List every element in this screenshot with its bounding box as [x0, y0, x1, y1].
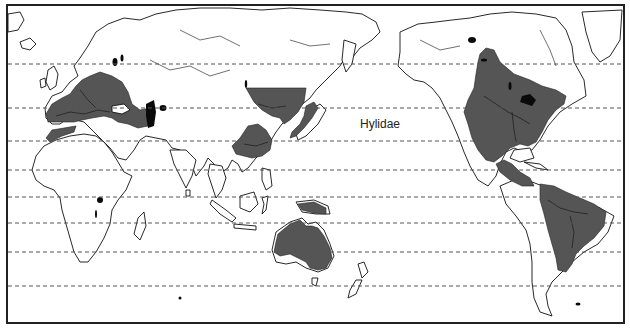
world-map [0, 0, 630, 330]
kerguelen [179, 297, 182, 300]
lake-winnipeg [509, 82, 512, 90]
lake-baikal-hint [245, 80, 247, 88]
british-isles [46, 66, 58, 90]
lake-onega [121, 55, 124, 62]
lake-victoria [97, 197, 103, 203]
great-slave-lake [481, 59, 487, 62]
falklands [576, 303, 581, 306]
lake-ladoga [113, 58, 118, 66]
ireland [40, 78, 46, 88]
map-title-label: Hylidae [360, 117, 400, 131]
great-bear-lake [468, 37, 476, 43]
sri-lanka [186, 190, 190, 196]
lake-tanganyika [95, 210, 97, 218]
